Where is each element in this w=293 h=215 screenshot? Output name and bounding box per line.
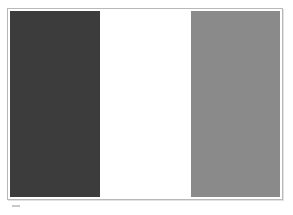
caption-mark [12, 205, 20, 207]
flag-frame [7, 8, 283, 200]
flag-band-center [100, 11, 191, 197]
flag-band-right [191, 11, 280, 197]
flag-band-left [10, 11, 100, 197]
